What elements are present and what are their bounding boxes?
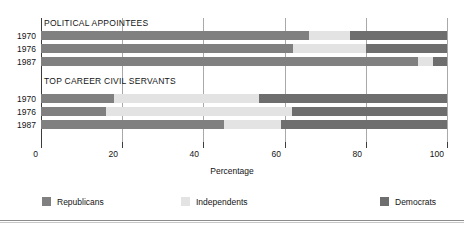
x-tick-100 [447, 142, 448, 148]
x-axis-title: Percentage [0, 166, 464, 176]
y-label-appointees-1987: 1987 [4, 57, 36, 67]
legend-item-republicans: Republicans [42, 196, 104, 207]
segment-democrats [281, 120, 447, 129]
x-tick-label-80: 80 [344, 149, 362, 159]
segment-republicans [41, 94, 114, 103]
legend-label-independents: Independents [196, 197, 248, 207]
segment-republicans [41, 57, 418, 66]
segment-independents [114, 94, 259, 103]
x-tick-label-100: 100 [420, 149, 444, 159]
segment-democrats [366, 44, 447, 53]
segment-democrats [292, 107, 447, 116]
group-title-political-appointees: POLITICAL APPOINTEES [44, 18, 148, 28]
x-tick-label-0: 0 [24, 149, 38, 159]
bottom-divider-2 [0, 222, 464, 223]
segment-independents [418, 57, 433, 66]
y-label-appointees-1970: 1970 [4, 31, 36, 41]
x-tick-80 [366, 142, 367, 148]
legend-swatch-independents [181, 197, 190, 206]
legend-item-democrats: Democrats [380, 196, 436, 207]
legend-swatch-republicans [42, 197, 51, 206]
segment-independents [293, 44, 366, 53]
segment-democrats [259, 94, 447, 103]
segment-democrats [433, 57, 447, 66]
chart-figure: POLITICAL APPOINTEES TOP CAREER CIVIL SE… [0, 0, 464, 229]
legend-label-democrats: Democrats [395, 197, 436, 207]
group-title-civil-servants: TOP CAREER CIVIL SERVANTS [44, 76, 176, 86]
segment-independents [224, 120, 281, 129]
y-label-civil-1987: 1987 [4, 120, 36, 130]
segment-democrats [350, 31, 447, 40]
legend-label-republicans: Republicans [57, 197, 104, 207]
legend-swatch-democrats [380, 197, 389, 206]
segment-republicans [41, 31, 309, 40]
gridline-100 [447, 18, 448, 142]
segment-republicans [41, 107, 106, 116]
legend-item-independents: Independents [181, 196, 248, 207]
segment-republicans [41, 44, 293, 53]
y-label-civil-1976: 1976 [4, 107, 36, 117]
y-label-appointees-1976: 1976 [4, 44, 36, 54]
x-tick-60 [285, 142, 286, 148]
x-tick-label-20: 20 [100, 149, 118, 159]
segment-republicans [41, 120, 224, 129]
segment-independents [106, 107, 292, 116]
segment-independents [309, 31, 350, 40]
x-tick-20 [122, 142, 123, 148]
y-label-civil-1970: 1970 [4, 94, 36, 104]
x-tick-0 [41, 142, 42, 148]
bottom-divider [0, 220, 464, 221]
x-tick-40 [203, 142, 204, 148]
x-tick-label-60: 60 [263, 149, 281, 159]
x-tick-label-40: 40 [181, 149, 199, 159]
